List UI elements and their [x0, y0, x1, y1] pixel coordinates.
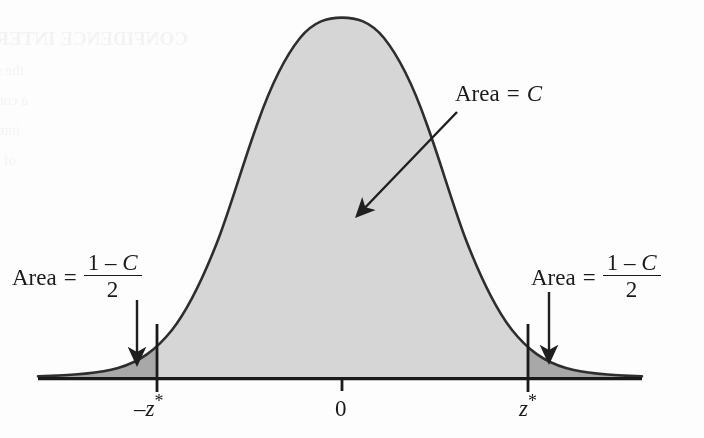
axis-tick-label-right-critical-value: z*: [519, 396, 537, 422]
left-tail-numerator-var: C: [122, 250, 137, 275]
center-tick-value: 0: [335, 396, 347, 421]
right-tail-fraction: 1 – C 2: [603, 251, 661, 301]
left-tail-equals: =: [64, 266, 77, 289]
axis-tick-label-center-zero: 0: [335, 396, 347, 422]
axis-tick-label-left-critical-value: –z*: [134, 396, 163, 422]
left-tick-minus-sign: –: [134, 396, 146, 421]
left-tail-prefix: Area: [12, 266, 57, 289]
right-tail-prefix: Area: [531, 266, 576, 289]
left-tail-denominator: 2: [84, 276, 142, 301]
normal-curve-figure: CONFIDENCE INTERVALS the sample mean and…: [0, 0, 704, 438]
right-tail-numerator-minus: –: [624, 250, 636, 275]
left-tail-numerator-minus: –: [105, 250, 117, 275]
left-tail-fraction: 1 – C 2: [84, 251, 142, 301]
center-area-equals: =: [507, 82, 520, 105]
right-tail-numerator: 1 – C: [603, 251, 661, 276]
center-area-label: Area = C: [455, 82, 542, 105]
center-area-value: C: [527, 82, 542, 105]
left-tail-area-label: Area = 1 – C 2: [12, 252, 142, 302]
right-tail-equals: =: [583, 266, 596, 289]
right-tail-numerator-var: C: [641, 250, 656, 275]
central-body-region: [38, 18, 642, 378]
left-tail-numerator-one: 1: [88, 250, 100, 275]
right-tail-area-label: Area = 1 – C 2: [531, 252, 661, 302]
curve-drawing: [0, 0, 704, 438]
left-tick-star: *: [154, 391, 163, 411]
right-tick-variable: z: [519, 396, 528, 421]
right-tick-star: *: [528, 391, 537, 411]
center-area-prefix: Area: [455, 82, 500, 105]
right-tail-denominator: 2: [603, 276, 661, 301]
left-tail-numerator: 1 – C: [84, 251, 142, 276]
right-tail-numerator-one: 1: [607, 250, 619, 275]
